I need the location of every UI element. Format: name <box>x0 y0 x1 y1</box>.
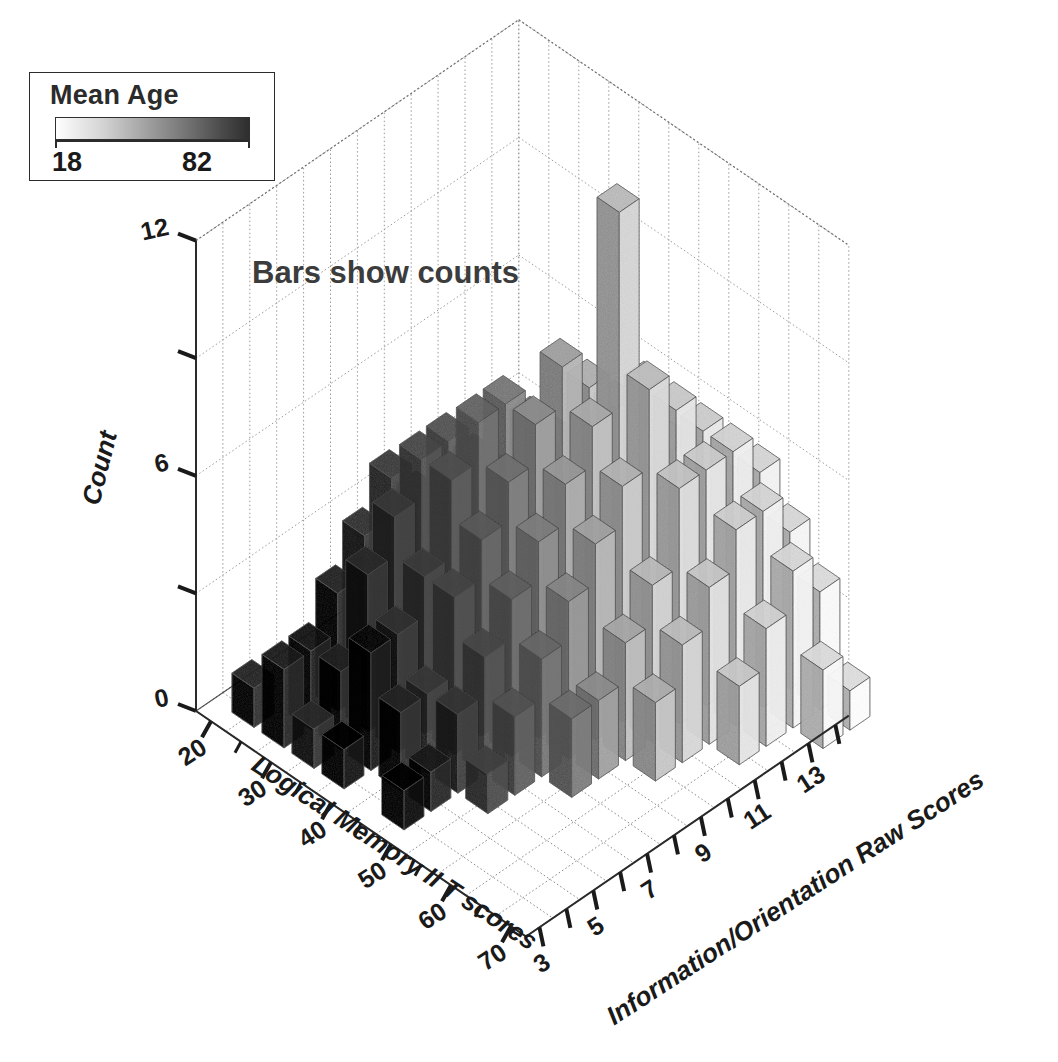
svg-text:12: 12 <box>138 212 171 245</box>
svg-text:6: 6 <box>152 447 171 477</box>
legend-scale-rule <box>55 140 250 142</box>
chart-figure: 0612Count203040506070Logical Memory II T… <box>0 0 1058 1062</box>
annotation-bars-show-counts: Bars show counts <box>252 255 519 290</box>
svg-text:0: 0 <box>152 683 171 713</box>
legend-scale-caps <box>55 140 250 148</box>
svg-text:20: 20 <box>173 732 212 771</box>
svg-text:Count: Count <box>76 426 124 507</box>
bar <box>717 658 759 765</box>
svg-text:11: 11 <box>738 797 775 835</box>
legend-title: Mean Age <box>50 80 179 111</box>
bar <box>549 690 591 797</box>
svg-text:7: 7 <box>636 874 663 905</box>
bar <box>633 674 675 781</box>
svg-text:9: 9 <box>689 837 716 868</box>
legend-max-label: 82 <box>182 147 212 178</box>
svg-text:70: 70 <box>473 937 512 976</box>
legend-color-ramp <box>55 117 250 140</box>
svg-text:13: 13 <box>791 759 830 798</box>
svg-text:5: 5 <box>582 910 609 941</box>
legend-min-label: 18 <box>52 147 82 178</box>
svg-text:3: 3 <box>528 947 555 978</box>
mean-age-legend: Mean Age 18 82 <box>29 72 275 181</box>
